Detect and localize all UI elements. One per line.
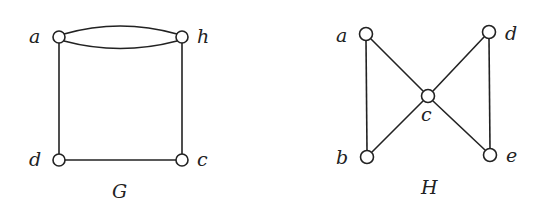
edge-c-d (433, 37, 484, 91)
edge-a-h-upper (64, 26, 177, 34)
edge-d-e (489, 38, 490, 149)
vertex-h-e (484, 149, 497, 162)
edge-b-c (372, 101, 423, 152)
edge-a-b (366, 40, 367, 151)
vertex-h-d (483, 26, 496, 39)
label-h-d: d (505, 22, 517, 44)
diagram-canvas: a h c d G a b c d e H (0, 0, 543, 207)
label-g-d: d (29, 148, 41, 170)
label-g-h: h (197, 25, 209, 47)
label-h-e: e (506, 144, 517, 166)
vertex-h-b (361, 151, 374, 164)
vertex-g-h (176, 31, 188, 43)
vertex-g-a (53, 31, 65, 43)
label-g-c: c (197, 148, 208, 170)
vertex-h-c (422, 90, 435, 103)
label-h-b: b (336, 146, 348, 168)
edge-a-c (371, 39, 423, 91)
label-h-a: a (336, 24, 347, 46)
graph-title-g: G (112, 180, 127, 202)
graph-h: a b c d e H (336, 22, 517, 198)
graph-title-h: H (420, 176, 438, 198)
edge-a-h-lower (64, 41, 177, 49)
edge-c-e (433, 101, 485, 150)
label-h-c: c (421, 103, 432, 125)
vertex-g-d (53, 154, 65, 166)
graph-g: a h c d G (29, 25, 209, 202)
label-g-a: a (29, 25, 40, 47)
vertex-g-c (176, 154, 188, 166)
vertex-h-a (360, 28, 373, 41)
